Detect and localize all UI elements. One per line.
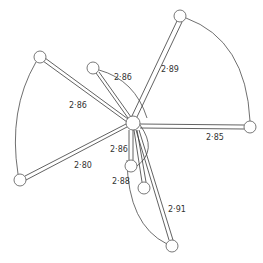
atom-inner-upper <box>87 62 99 74</box>
distance-label: 2·88 <box>112 177 130 186</box>
distance-label: 2·86 <box>69 101 87 110</box>
distance-label: 2·86 <box>114 73 132 82</box>
atom-lower-left <box>14 174 26 186</box>
atom-upper-left <box>34 51 46 63</box>
atom-top-right <box>174 10 186 22</box>
atom-bottom <box>166 240 178 252</box>
distance-label: 2·86 <box>110 145 128 154</box>
atom-center <box>126 116 140 130</box>
atom-inner-lower-b <box>138 182 150 194</box>
arc-upperleft-lowerleft <box>15 62 36 174</box>
distance-label: 2·91 <box>168 205 186 214</box>
coordination-diagram: 2·89 2·86 2·86 2·85 2·80 2·86 2·88 2·91 <box>0 0 263 263</box>
distance-label: 2·89 <box>161 65 179 74</box>
atoms <box>14 10 256 252</box>
atom-right <box>244 121 256 133</box>
distance-label: 2·80 <box>74 161 92 170</box>
arc-topright-right <box>186 18 250 121</box>
atom-inner-lower-a <box>125 160 137 172</box>
bond-right <box>140 124 244 125</box>
distance-label: 2·85 <box>206 133 224 142</box>
